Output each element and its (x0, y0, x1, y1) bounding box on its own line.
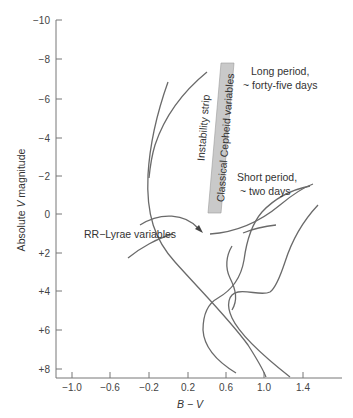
x-tick-label: 1.0 (257, 382, 271, 393)
track-giant-left (227, 246, 236, 310)
x-axis-title: B − V (177, 398, 204, 410)
x-tick-label: 0.6 (219, 382, 233, 393)
y-tick-label: −8 (39, 54, 51, 65)
x-tick-label: −1.0 (62, 382, 82, 393)
x-tick-label: 1.4 (296, 382, 310, 393)
x-tick-label: −0.2 (139, 382, 159, 393)
y-tick-label: −10 (33, 15, 50, 26)
y-tick-label: +8 (39, 364, 51, 375)
y-tick-label: −2 (39, 171, 51, 182)
track-right (229, 205, 318, 377)
instability-strip-label: Instability strip (194, 94, 211, 161)
long-period-label: Long period, (251, 65, 309, 77)
y-axis: −10 −8 −6 −4 −2 0 +2 +4 +6 +8 Absolute V… (15, 15, 62, 378)
long-period-sublabel: ~ forty-five days (243, 79, 317, 91)
y-axis-title: Absolute V magnitude (15, 148, 27, 251)
hr-diagram: −10 −8 −6 −4 −2 0 +2 +4 +6 +8 Absolute V… (0, 0, 353, 418)
x-tick-label: 0.2 (181, 382, 195, 393)
y-tick-label: 0 (44, 209, 50, 220)
track-short-period-second (203, 186, 310, 373)
y-tick-label: −4 (39, 133, 51, 144)
x-tick-label: −0.6 (100, 382, 120, 393)
rr-lyrae-label: RR−Lyrae variables (84, 228, 176, 240)
y-tick-label: +2 (39, 248, 51, 259)
short-period-label: Short period, (237, 171, 297, 183)
y-tick-label: +6 (39, 325, 51, 336)
instability-strip: Classical Cepheid variables Instability … (194, 63, 236, 213)
y-ticks (56, 20, 62, 369)
x-axis: −1.0 −0.6 −0.2 0.2 0.6 1.0 1.4 B − V (56, 372, 342, 410)
short-period-sublabel: ~ two days (240, 185, 291, 197)
y-tick-label: +4 (39, 286, 51, 297)
track-crossing-line (243, 225, 276, 233)
y-tick-label: −6 (39, 94, 51, 105)
